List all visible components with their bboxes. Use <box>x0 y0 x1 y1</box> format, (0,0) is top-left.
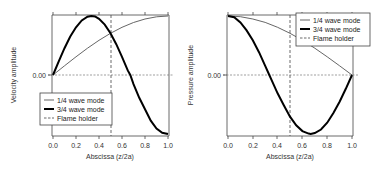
right-x-tick-label: 1.0 <box>347 142 357 149</box>
velocity-plot: Velocity amplitude 0.00 0.0 0.2 0.4 0.6 … <box>10 12 174 161</box>
right-legend-quarter-wave: 1/4 wave mode <box>313 17 361 24</box>
right-y-axis-label: Pressure amplitude <box>187 45 195 105</box>
left-legend: 1/4 wave mode 3/4 wave mode Flame holder <box>40 93 112 125</box>
right-x-axis-label: Abscissa (z/2a) <box>266 153 314 161</box>
left-x-tick-label: 0.8 <box>140 142 150 149</box>
right-x-tick-label: 0.6 <box>297 142 307 149</box>
left-quarter-wave-curve <box>53 16 168 75</box>
left-x-tick-label: 1.0 <box>163 142 173 149</box>
left-legend-quarter-wave: 1/4 wave mode <box>57 97 105 104</box>
right-x-tick-label: 0.0 <box>223 142 233 149</box>
left-x-tick-label: 0.0 <box>48 142 58 149</box>
right-legend-three-quarter-wave: 3/4 wave mode <box>313 26 361 33</box>
right-legend: 1/4 wave mode 3/4 wave mode Flame holder <box>296 13 370 46</box>
pressure-plot: Pressure amplitude 0.00 0.0 0.2 0.4 0.6 … <box>187 12 370 161</box>
right-x-tick-label: 0.8 <box>322 142 332 149</box>
left-legend-flame-holder: Flame holder <box>57 115 99 122</box>
right-zero-tick-label: 0.00 <box>207 72 221 79</box>
left-y-axis-label: Velocity amplitude <box>10 47 18 104</box>
left-x-tick-label: 0.2 <box>71 142 81 149</box>
left-zero-tick-label: 0.00 <box>32 72 46 79</box>
left-x-tick-label: 0.6 <box>117 142 127 149</box>
figure: Velocity amplitude 0.00 0.0 0.2 0.4 0.6 … <box>0 0 379 170</box>
right-legend-flame-holder: Flame holder <box>313 35 355 42</box>
left-x-tick-label: 0.4 <box>94 142 104 149</box>
left-top-ticks <box>53 12 168 15</box>
right-bottom-ticks <box>228 136 352 139</box>
right-x-tick-label: 0.4 <box>272 142 282 149</box>
left-legend-three-quarter-wave: 3/4 wave mode <box>57 106 105 113</box>
right-x-tick-label: 0.2 <box>248 142 258 149</box>
left-bottom-ticks <box>53 136 168 139</box>
left-x-axis-label: Abscissa (z/2a) <box>86 153 134 161</box>
